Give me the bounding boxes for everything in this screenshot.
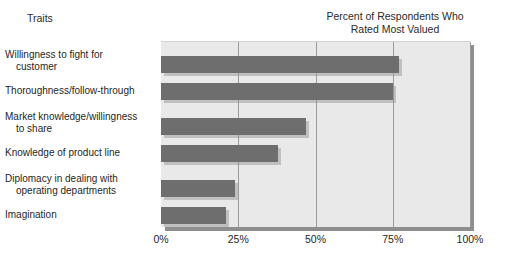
gridline-100% — [470, 42, 471, 227]
category-label-line-1: Market knowledge/willingness — [5, 111, 137, 122]
bar[interactable] — [161, 83, 393, 100]
chart-title-line-1: Percent of Respondents Who — [300, 10, 490, 23]
category-label-line-2: customer — [5, 61, 157, 73]
tick-label-75%: 75% — [382, 233, 403, 245]
traits-axis-heading: Traits — [27, 12, 53, 24]
bar[interactable] — [161, 145, 278, 162]
category-label: Willingness to fight forcustomer — [5, 49, 157, 72]
chart-title: Percent of Respondents Who Rated Most Va… — [300, 10, 490, 35]
category-label-line-1: Willingness to fight for — [5, 49, 103, 60]
plot-shadow-bottom — [165, 227, 474, 231]
category-label: Thoroughness/follow-through — [5, 85, 157, 97]
category-label-line-1: Thoroughness/follow-through — [5, 85, 135, 96]
bar[interactable] — [161, 118, 306, 135]
tick-label-0%: 0% — [153, 233, 168, 245]
category-label-line-2: operating departments — [5, 185, 157, 197]
category-label: Diplomacy in dealing withoperating depar… — [5, 173, 157, 196]
category-label-line-2: to share — [5, 123, 157, 135]
bar[interactable] — [161, 180, 235, 197]
tick-label-50%: 50% — [305, 233, 326, 245]
category-label: Knowledge of product line — [5, 147, 157, 159]
tick-label-100%: 100% — [457, 233, 484, 245]
plot-area — [161, 41, 470, 227]
tick-label-25%: 25% — [228, 233, 249, 245]
category-label: Imagination — [5, 209, 157, 221]
chart-title-line-2: Rated Most Valued — [300, 23, 490, 36]
category-label-line-1: Knowledge of product line — [5, 147, 120, 158]
category-label-line-1: Imagination — [5, 209, 57, 220]
category-label-line-1: Diplomacy in dealing with — [5, 173, 118, 184]
bar[interactable] — [161, 56, 399, 73]
bar[interactable] — [161, 207, 226, 224]
category-label: Market knowledge/willingnessto share — [5, 111, 157, 134]
